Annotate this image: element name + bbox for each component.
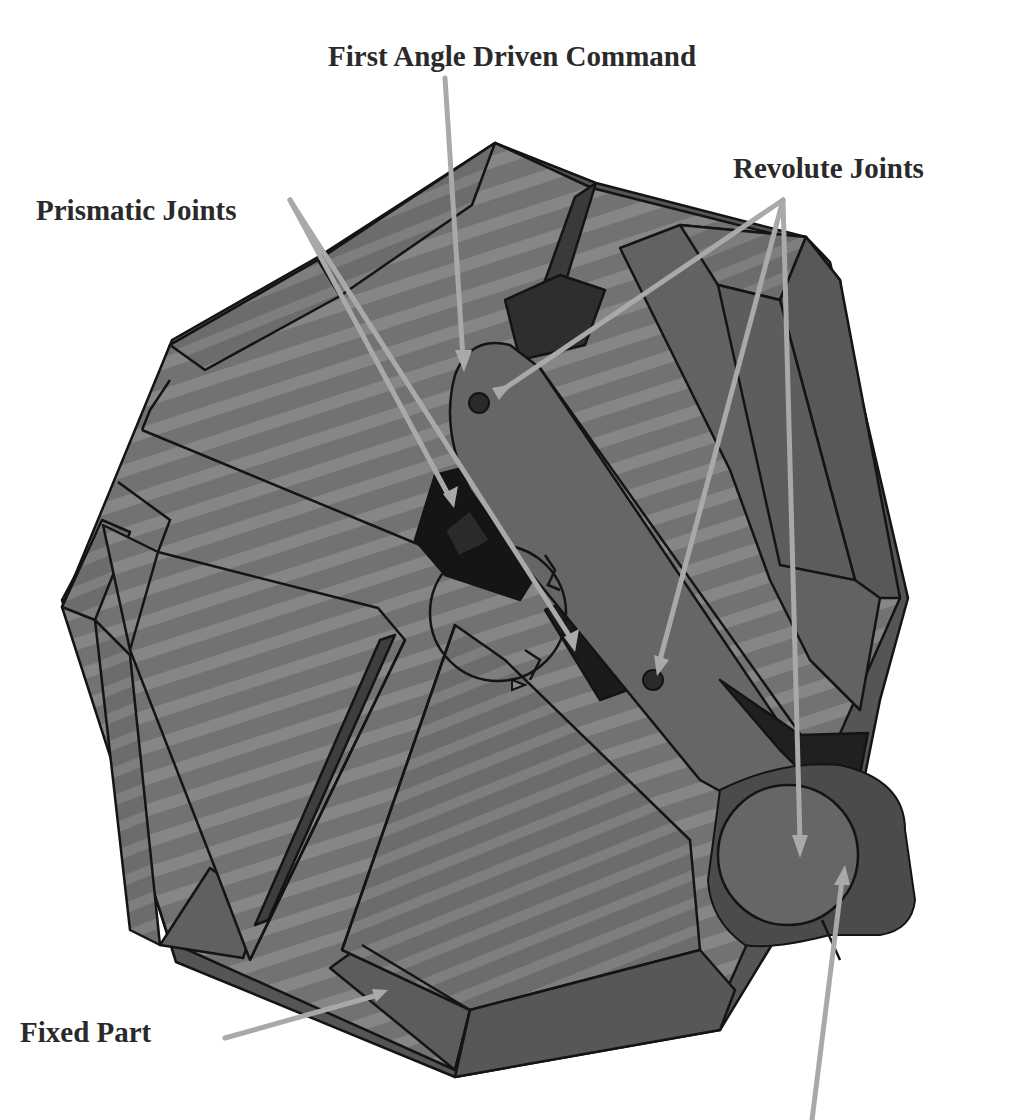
revolute-knob (708, 764, 915, 960)
revolute-pin-upper (469, 393, 489, 413)
label-revolute-joints: Revolute Joints (733, 154, 924, 183)
label-fixed-part: Fixed Part (20, 1018, 151, 1047)
label-prismatic-joints: Prismatic Joints (36, 196, 237, 225)
revolute-pin-middle (643, 670, 663, 690)
label-first-angle-driven-command: First Angle Driven Command (328, 42, 696, 71)
